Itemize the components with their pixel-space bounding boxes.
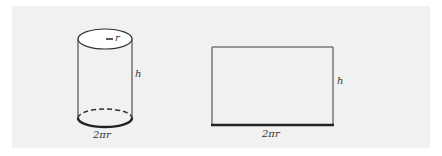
figure-drawing (0, 0, 442, 156)
rect-width-label: 2πr (262, 128, 280, 139)
cylinder-top-face (78, 29, 132, 49)
cylinder-height-label: h (135, 68, 141, 79)
cylinder-radius-label: r (115, 32, 120, 43)
cylinder-circumference-label: 2πr (93, 129, 111, 140)
cylinder-bottom-hidden-edge (78, 109, 132, 118)
rect-height-label: h (337, 75, 343, 86)
cylinder-bottom-circumference (78, 118, 132, 127)
unrolled-rectangle (211, 47, 334, 125)
cylinder (78, 29, 132, 127)
